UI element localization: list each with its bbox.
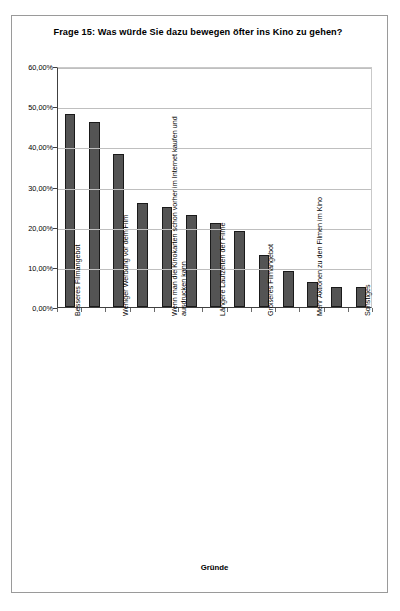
y-tick-label: 40,00% — [7, 143, 53, 152]
bars-layer — [58, 68, 371, 307]
x-tick-mark — [57, 308, 58, 312]
y-tick-label: 10,00% — [7, 263, 53, 272]
gridline — [58, 189, 371, 190]
x-tick-label: Mehr Aktionen zu den Filmen im Kino — [315, 197, 324, 316]
x-tick-label: Weniger Werbung vor dem Film — [121, 215, 130, 316]
gridline — [58, 108, 371, 109]
x-tick-mark — [202, 308, 203, 312]
x-tick-label: Sonstiges — [363, 284, 372, 316]
x-tick-label: Wenn man die Kinokarten schon vorher im … — [170, 88, 188, 316]
x-tick-mark — [372, 308, 373, 312]
y-tick-label: 0,00% — [7, 304, 53, 313]
bar — [89, 122, 100, 307]
x-tick-mark — [299, 308, 300, 312]
y-tick-label: 60,00% — [7, 63, 53, 72]
plot-area — [57, 67, 372, 308]
x-tick-label: Größeres Filmangebot — [266, 244, 275, 316]
x-tick-mark — [251, 308, 252, 312]
x-tick-label: Besseres Filmangebot — [73, 244, 82, 316]
y-tick-label: 20,00% — [7, 223, 53, 232]
x-tick-mark — [348, 308, 349, 312]
bar — [331, 287, 342, 307]
chart-title: Frage 15: Was würde Sie dazu bewegen öft… — [38, 26, 358, 39]
x-axis-labels: Besseres FilmangebotWeniger Werbung vor … — [57, 313, 372, 553]
gridline — [58, 269, 371, 270]
y-axis: Prozentangaben 60,00%50,00%40,00%30,00%2… — [5, 67, 53, 308]
x-tick-mark — [105, 308, 106, 312]
bar — [137, 203, 148, 307]
y-tick-label: 50,00% — [7, 103, 53, 112]
x-tick-mark — [275, 308, 276, 312]
x-axis-title: Gründe — [57, 563, 372, 572]
x-tick-label: Längere Laufzeiten der Filme — [218, 223, 227, 317]
y-tick-label: 30,00% — [7, 183, 53, 192]
gridline — [58, 229, 371, 230]
gridline — [58, 148, 371, 149]
bar — [283, 271, 294, 307]
x-tick-mark — [154, 308, 155, 312]
gridline — [58, 68, 371, 69]
